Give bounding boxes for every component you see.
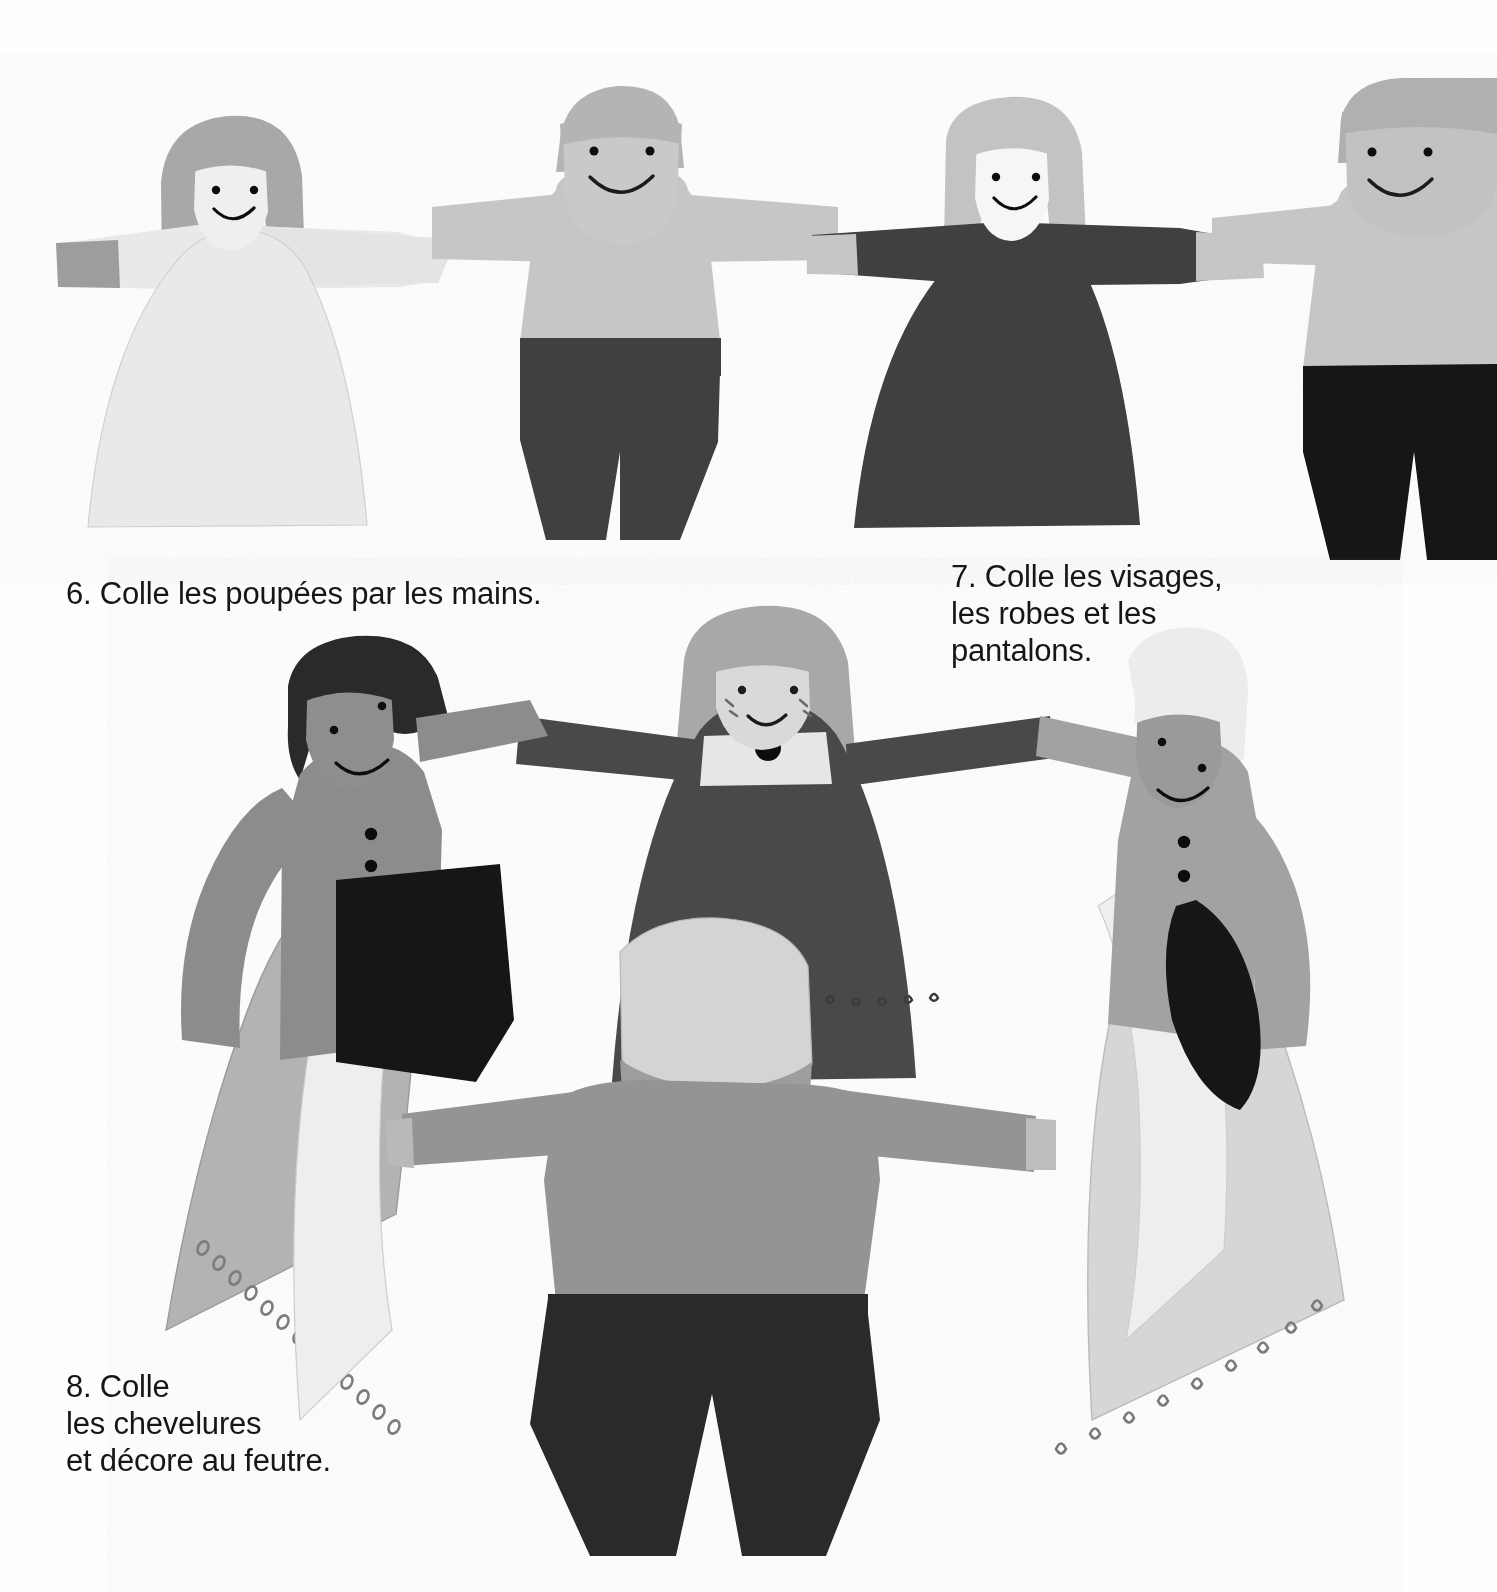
eye — [1158, 738, 1167, 747]
eye — [790, 686, 798, 694]
eye — [992, 173, 1000, 181]
eye — [590, 147, 599, 156]
eye — [212, 186, 220, 194]
button — [1178, 836, 1190, 848]
eye — [378, 702, 387, 711]
caption-step-8: 8. Colle les chevelures et décore au feu… — [66, 1368, 331, 1480]
illustration-page: 6. Colle les poupées par les mains. 7. C… — [0, 0, 1497, 1592]
button — [1178, 870, 1190, 882]
eye — [1032, 173, 1040, 181]
caption-step-6: 6. Colle les poupées par les mains. — [66, 575, 541, 612]
eye — [250, 186, 258, 194]
eye — [1424, 148, 1433, 157]
eye — [1368, 148, 1377, 157]
caption-step-7: 7. Colle les visages, les robes et les p… — [951, 558, 1223, 670]
button — [365, 860, 377, 872]
button — [365, 828, 377, 840]
eye — [738, 686, 746, 694]
paper-dolls-illustration — [0, 0, 1497, 1592]
eye — [1198, 764, 1207, 773]
eye — [646, 147, 655, 156]
eye — [330, 726, 339, 735]
